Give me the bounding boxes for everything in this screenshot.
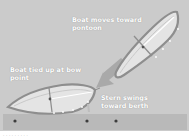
label-stern-swings: Stern swings toward berth <box>101 95 148 110</box>
label-line: pontoon <box>72 25 142 33</box>
pontoon-cleats <box>13 119 117 122</box>
label-boat-tied: Boat tied up at bow point <box>10 67 81 82</box>
cleat-icon <box>114 119 117 122</box>
moored-boat <box>8 84 100 114</box>
caption: · · · · · · · · · <box>3 133 28 138</box>
cleat-icon <box>13 119 16 122</box>
label-line: point <box>10 75 81 83</box>
label-boat-moves: Boat moves toward pontoon <box>72 17 142 32</box>
label-line: toward berth <box>101 103 148 111</box>
cleat-icon <box>85 119 88 122</box>
